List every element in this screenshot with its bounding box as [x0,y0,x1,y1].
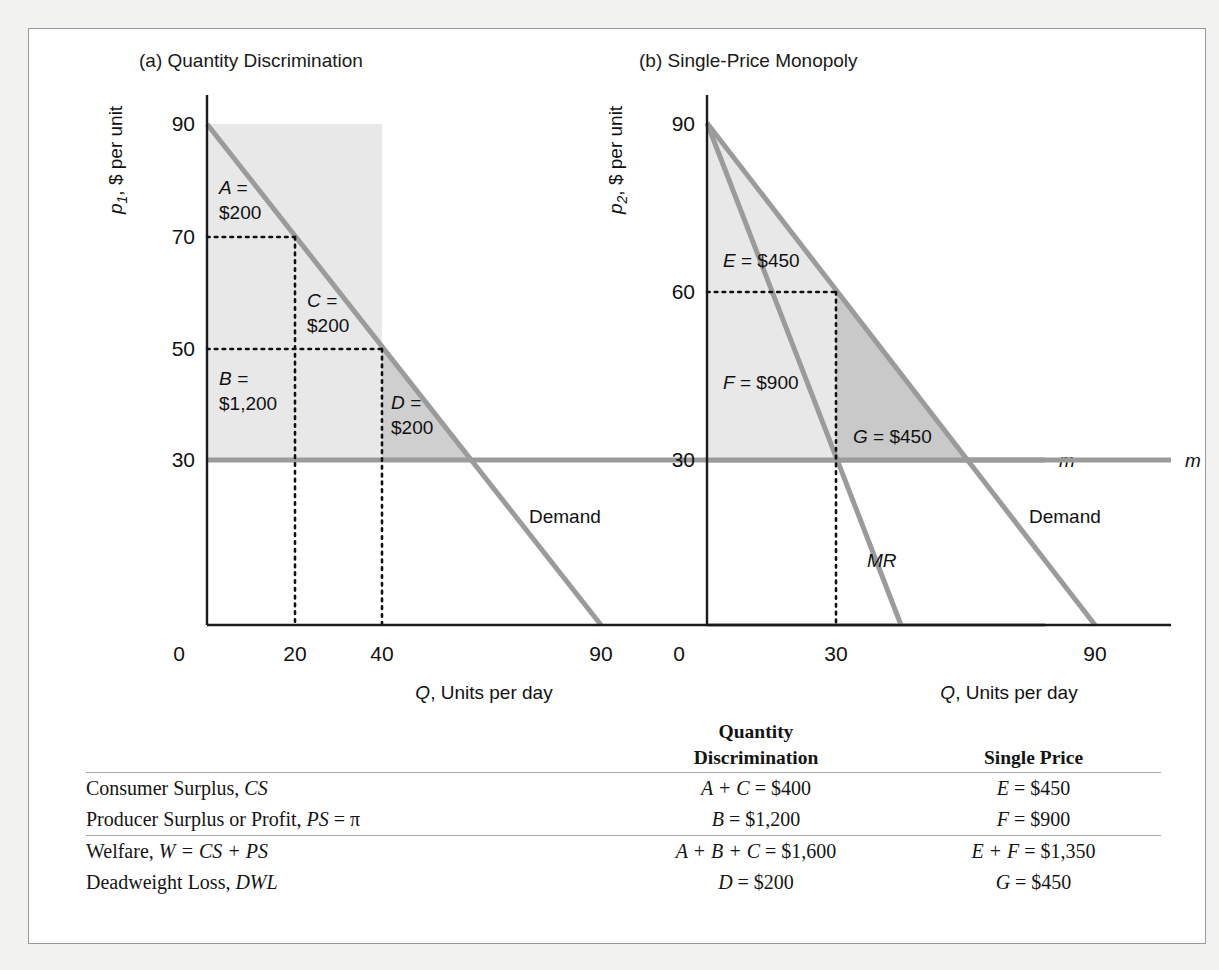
panel-a-y-axis-caption: p1, $ per unit [105,105,130,215]
row-value-cs-qd-italic: A + C [701,777,750,799]
panel-b-ytick-30: 30 [672,448,695,471]
table-row: Consumer Surplus, CS A + C = $400 E = $4… [86,773,1161,804]
row-label-welfare: Welfare, W = CS + PS [86,836,606,867]
row-value-ps-sp-rest: = $900 [1009,808,1070,830]
figure-frame: (a) Quantity Discrimination p1, $ per un… [28,28,1206,944]
row-value-w-qd: A + B + C = $1,600 [606,836,906,867]
panel-a-y-axis-symbol: p [105,203,126,215]
panel-b-y-axis-symbol: p [605,203,626,215]
row-value-w-sp-italic: E + F [971,840,1019,862]
panel-a-region-d-line1: D = [391,392,421,413]
panel-b-label-demand: Demand [1029,506,1101,527]
row-value-ps-sp: F = $900 [906,804,1161,835]
table-header-sp-line: Single Price [906,745,1161,771]
row-value-dwl-qd-rest: = $200 [733,871,794,893]
panel-a-region-b-line2: $1,200 [219,393,277,414]
row-value-dwl-qd: D = $200 [606,867,906,898]
svg-text:p2, $ per unit: p2, $ per unit [605,105,630,215]
panel-a-region-c-line1: C = [307,290,337,311]
panel-b-x-axis-symbol: Q [940,682,955,703]
table-header-row: Quantity Discrimination Single Price [86,719,1161,772]
panel-b-region-g: G = $450 [853,426,932,447]
panel-a-region-c-line2: $200 [307,315,349,336]
row-value-w-sp: E + F = $1,350 [906,836,1161,867]
table-header-single-price: Single Price [906,719,1161,772]
panel-b-xtick-30: 30 [824,642,847,665]
row-value-w-qd-italic: A + B + C [676,840,760,862]
row-value-w-qd-rest: = $1,600 [760,840,836,862]
row-label-cs-italic: CS [244,777,267,799]
table-header-quantity-discrimination: Quantity Discrimination [606,719,906,772]
row-label-producer-surplus: Producer Surplus or Profit, PS = π [86,804,606,835]
row-label-dwl-plain: Deadweight Loss, [86,871,235,893]
panel-b-region-e: E = $450 [723,250,800,271]
table-row: Deadweight Loss, DWL D = $200 G = $450 [86,867,1161,898]
panel-a-x-axis-symbol: Q [415,682,430,703]
welfare-comparison-table: Quantity Discrimination Single Price Con… [86,719,1161,898]
table-header-qd-line1: Quantity [606,719,906,745]
panel-b-region-g-symbol: G [853,426,868,447]
svg-text:p1, $ per unit: p1, $ per unit [105,105,130,215]
panel-a-ytick-50: 50 [172,337,195,360]
row-value-cs-sp-italic: E [997,777,1009,799]
table-row: Welfare, W = CS + PS A + B + C = $1,600 … [86,836,1161,867]
panel-b-y-axis-subscript: 2 [614,195,630,204]
panel-a-region-b-line1: B = [219,368,248,389]
panel-a-xtick-0: 0 [173,642,185,665]
panel-a-ytick-30: 30 [172,448,195,471]
panel-a-region-a-line2: $200 [219,202,261,223]
panel-a-xtick-20: 20 [283,642,306,665]
panel-a-region-d-line2: $200 [391,417,433,438]
panel-b-y-axis-units: , $ per unit [605,105,626,195]
panel-a-title: (a) Quantity Discrimination [139,50,363,71]
panel-a-xtick-40: 40 [370,642,393,665]
row-value-dwl-sp-rest: = $450 [1010,871,1071,893]
row-label-ps-italic: PS [307,808,329,830]
panel-b-region-e-value: = $450 [736,250,800,271]
panel-b-label-mr: MR [867,550,897,571]
row-value-dwl-sp: G = $450 [906,867,1161,898]
panel-a-ytick-70: 70 [172,225,195,248]
row-value-cs-qd: A + C = $400 [606,773,906,804]
panel-b-region-g-value: = $450 [868,426,932,447]
panel-a-ytick-90: 90 [172,112,195,135]
panel-b-y-axis-caption: p2, $ per unit [605,105,630,215]
row-value-ps-qd-italic: B [712,808,724,830]
row-value-w-sp-rest: = $1,350 [1019,840,1095,862]
panel-b-xtick-0: 0 [673,642,685,665]
panel-b-region-f: F = $900 [723,372,799,393]
row-value-dwl-qd-italic: D [718,871,732,893]
panel-a-y-axis-units: , $ per unit [105,105,126,195]
panel-a-y-axis-subscript: 1 [114,196,130,204]
row-label-w-plain: Welfare, [86,840,159,862]
panel-b-xtick-90: 90 [1083,642,1106,665]
panel-b-ytick-60: 60 [672,280,695,303]
row-label-ps-plain: Producer Surplus or Profit, [86,808,307,830]
row-label-deadweight-loss: Deadweight Loss, DWL [86,867,606,898]
panel-a-xtick-90: 90 [589,642,612,665]
table-header-blank [86,719,606,772]
panel-b: (b) Single-Price Monopoly p2, $ per unit… [605,50,1201,703]
panel-b-region-e-symbol: E [723,250,736,271]
table-header-qd-line2: Discrimination [606,745,906,771]
panel-a-x-axis-caption: Q, Units per day [415,682,553,703]
row-value-cs-qd-rest: = $400 [750,777,811,799]
panel-b-label-m: m [1185,450,1201,471]
panel-a: (a) Quantity Discrimination p1, $ per un… [105,50,1075,703]
table-row: Producer Surplus or Profit, PS = π B = $… [86,804,1161,835]
row-label-consumer-surplus: Consumer Surplus, CS [86,773,606,804]
row-label-cs-plain: Consumer Surplus, [86,777,244,799]
panel-a-region-a-line1: A = [218,177,247,198]
row-label-dwl-italic: DWL [235,871,277,893]
row-label-ps-tail: = π [329,808,360,830]
panel-b-x-axis-units: , Units per day [955,682,1078,703]
panel-b-region-f-value: = $900 [735,372,799,393]
row-value-cs-sp: E = $450 [906,773,1161,804]
panel-b-ytick-90: 90 [672,112,695,135]
row-label-w-italic: W = CS + PS [159,840,268,862]
panel-b-x-axis-caption: Q, Units per day [940,682,1078,703]
panel-b-title: (b) Single-Price Monopoly [639,50,858,71]
row-value-ps-sp-italic: F [997,808,1009,830]
panel-a-label-demand: Demand [529,506,601,527]
row-value-ps-qd-rest: = $1,200 [724,808,800,830]
